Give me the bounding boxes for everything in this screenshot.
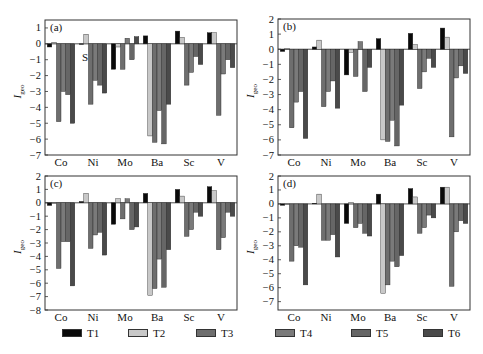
bar-t5-co bbox=[66, 44, 71, 95]
bar-t2-sc bbox=[180, 37, 185, 43]
y-tick-label: −3 bbox=[30, 86, 41, 97]
bar-t4-mo bbox=[358, 42, 363, 50]
x-tick-label: Mo bbox=[117, 311, 133, 323]
y-tick-label: −2 bbox=[30, 70, 41, 81]
bar-t1-ni bbox=[79, 201, 84, 202]
bar-t4-ba bbox=[390, 204, 395, 261]
bar-t3-v bbox=[216, 44, 221, 115]
y-tick-label: 0 bbox=[269, 198, 274, 209]
bar-t6-ni bbox=[335, 49, 340, 108]
bar-t2-co bbox=[285, 204, 290, 205]
y-tick-label: −6 bbox=[263, 134, 274, 145]
chart-figure: CoNiMoBaScV10−1−2−3−4−5−6−7(a)IgeoSCoNiM… bbox=[0, 0, 483, 354]
bar-t6-ni bbox=[102, 203, 107, 255]
x-tick-label: Mo bbox=[117, 156, 133, 168]
bar-t5-co bbox=[66, 203, 71, 242]
bar-t3-ba bbox=[385, 49, 390, 141]
chart-panel-3: CoNiMoBaScV210−1−2−3−4−5−6−7(d)Igeo bbox=[244, 171, 470, 324]
legend-label: T1 bbox=[87, 327, 99, 339]
bar-t6-co bbox=[70, 44, 75, 123]
bar-t3-mo bbox=[353, 49, 358, 76]
bar-t6-v bbox=[230, 203, 235, 216]
bar-t6-mo bbox=[134, 203, 139, 227]
bar-t5-sc bbox=[194, 44, 199, 57]
bar-t6-co bbox=[70, 203, 75, 286]
bar-t5-sc bbox=[427, 49, 432, 58]
bar-t5-v bbox=[459, 204, 464, 221]
bar-t5-ni bbox=[98, 44, 103, 85]
y-axis-label: Igeo bbox=[244, 84, 259, 99]
y-tick-label: −3 bbox=[30, 238, 41, 249]
bar-t1-sc bbox=[175, 189, 180, 202]
legend-item-t6: T6 bbox=[423, 327, 460, 339]
bar-t2-mo bbox=[116, 44, 121, 47]
bar-t4-v bbox=[454, 204, 459, 232]
y-tick-label: −7 bbox=[263, 150, 274, 161]
x-tick-label: Sc bbox=[184, 156, 195, 168]
bar-t5-co bbox=[299, 49, 304, 91]
y-axis-label: Igeo bbox=[11, 240, 26, 255]
bar-t3-sc bbox=[184, 44, 189, 85]
bar-t2-ba bbox=[148, 44, 153, 136]
bar-t4-co bbox=[294, 49, 299, 102]
x-tick-label: Ba bbox=[151, 311, 163, 323]
bar-t2-ni bbox=[84, 34, 89, 44]
bar-t1-v bbox=[440, 28, 445, 49]
bar-t4-ni bbox=[93, 44, 98, 81]
bar-t5-ba bbox=[162, 44, 167, 144]
x-tick-label: V bbox=[217, 156, 225, 168]
bar-t2-v bbox=[212, 33, 217, 44]
bar-t3-co bbox=[289, 49, 294, 128]
chart-legend: T1 T2 T3 T4 T5 T6 bbox=[0, 327, 483, 341]
bar-t6-ba bbox=[166, 203, 171, 250]
legend-label: T3 bbox=[221, 327, 233, 339]
bar-t4-ni bbox=[326, 49, 331, 91]
y-tick-label: −3 bbox=[263, 240, 274, 251]
bar-t6-v bbox=[463, 204, 468, 224]
bar-t4-v bbox=[221, 203, 226, 238]
x-tick-label: Ba bbox=[384, 311, 396, 323]
y-tick-label: 2 bbox=[269, 14, 274, 25]
bar-t2-co bbox=[52, 203, 57, 204]
y-tick-label: −1 bbox=[30, 54, 41, 65]
legend-label: T5 bbox=[376, 327, 388, 339]
x-tick-label: Ba bbox=[151, 156, 163, 168]
bar-t2-co bbox=[285, 48, 290, 49]
x-tick-label: Ni bbox=[88, 311, 99, 323]
y-tick-label: −4 bbox=[263, 254, 275, 265]
bar-t2-v bbox=[445, 187, 450, 204]
bar-t3-v bbox=[449, 49, 454, 137]
bar-t4-mo bbox=[358, 204, 363, 224]
y-tick-label: −5 bbox=[30, 118, 41, 129]
bar-t6-ni bbox=[102, 44, 107, 93]
x-tick-label: Ba bbox=[384, 156, 396, 168]
bar-t2-sc bbox=[413, 197, 418, 204]
bar-t3-v bbox=[216, 203, 221, 250]
panel-label: (d) bbox=[283, 177, 296, 190]
x-tick-label: Co bbox=[55, 156, 68, 168]
y-tick-label: 1 bbox=[36, 22, 41, 33]
bar-t2-sc bbox=[413, 45, 418, 50]
bar-t1-v bbox=[207, 33, 212, 44]
bar-t5-sc bbox=[427, 204, 432, 215]
x-tick-label: V bbox=[217, 311, 225, 323]
y-tick-label: 1 bbox=[269, 29, 274, 40]
chart-panel-2: CoNiMoBaScV210−1−2−3−4−5−6−7−8(c)Igeo bbox=[11, 171, 237, 324]
bar-t3-mo bbox=[120, 203, 125, 219]
x-tick-label: Co bbox=[55, 311, 68, 323]
legend-label: T2 bbox=[153, 327, 165, 339]
bar-t3-ni bbox=[321, 49, 326, 106]
bar-t1-ni bbox=[312, 47, 317, 49]
bar-t1-sc bbox=[408, 189, 413, 204]
y-tick-label: 1 bbox=[36, 184, 41, 195]
y-tick-label: −5 bbox=[263, 268, 274, 279]
legend-swatch-t6 bbox=[423, 329, 443, 337]
bar-t5-ni bbox=[331, 49, 336, 81]
bar-t2-sc bbox=[180, 196, 185, 203]
bar-t5-co bbox=[299, 204, 304, 247]
bar-t2-ni bbox=[84, 193, 89, 202]
bar-t2-mo bbox=[116, 199, 121, 203]
bar-t3-ni bbox=[321, 204, 326, 240]
bar-t3-co bbox=[289, 204, 294, 261]
bar-t3-v bbox=[449, 204, 454, 286]
